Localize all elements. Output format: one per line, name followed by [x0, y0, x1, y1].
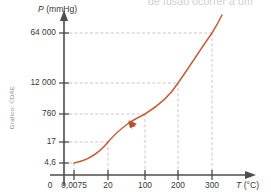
y-axis-unit: (mmHg)	[46, 4, 77, 14]
y-tick-label-4.6: 4,6	[2, 157, 56, 167]
y-axis-symbol: P	[38, 4, 44, 14]
y-tick-label-64000: 64 000	[2, 27, 56, 37]
y-tick-label-760: 760	[2, 108, 56, 118]
y-tick-label-12000: 12 000	[2, 77, 56, 87]
x-tick-label-300: 300	[199, 180, 225, 190]
y-axis-title: P (mmHg)	[38, 4, 77, 14]
x-axis	[50, 170, 256, 180]
horizontal-gridlines	[64, 33, 212, 163]
x-axis-unit: (°C)	[244, 180, 259, 190]
chart-figure: de fusão ocorrer a um Gráfico: ©DAE	[0, 0, 271, 196]
x-axis-symbol: T	[236, 180, 241, 190]
y-axis	[59, 10, 69, 186]
y-tick-label-17: 17	[2, 136, 56, 146]
x-tick-label-200: 200	[165, 180, 191, 190]
x-axis-title: T (°C)	[236, 180, 259, 190]
x-tick-label-100: 100	[132, 180, 158, 190]
vaporization-curve	[74, 15, 222, 163]
x-axis-arrow-right-icon	[245, 171, 256, 179]
x-tick-label-20: 20	[96, 180, 120, 190]
x-tick-label-0.0075: 0,0075	[54, 180, 94, 190]
